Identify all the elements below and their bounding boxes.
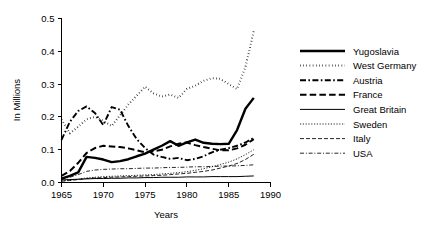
x-tick-label: 1990 [260,189,281,200]
legend-label-great-britain: Great Britain [353,104,406,115]
x-tick-label: 1965 [51,189,72,200]
legend-label-italy: Italy [353,133,371,144]
x-tick-label: 1985 [218,189,239,200]
series-line-austria [62,106,254,160]
y-tick-label: 0.2 [41,111,54,122]
series-layer [62,31,254,181]
legend-label-france: France [353,89,383,100]
chart-legend: YugoslaviaWest GermanyAustriaFranceGreat… [300,46,416,159]
y-tick-label: 0.3 [41,79,54,90]
y-axis: 0.00.10.20.30.40.5 [41,13,61,188]
x-axis: 196519701975198019851990 [51,183,281,200]
y-tick-label: 0.5 [41,13,54,24]
y-axis-title: In Millions [11,79,22,121]
y-tick-label: 0.4 [41,46,54,57]
x-axis-title: Years [154,209,178,220]
legend-label-west-germany: West Germany [353,60,416,71]
legend-label-austria: Austria [353,75,383,86]
line-chart: 0.00.10.20.30.40.5 196519701975198019851… [0,0,440,235]
chart-figure: 0.00.10.20.30.40.5 196519701975198019851… [0,0,440,235]
y-tick-label: 0.1 [41,144,54,155]
legend-label-sweden: Sweden [353,119,387,130]
y-tick-label: 0.0 [41,177,54,188]
legend-label-yugoslavia: Yugoslavia [353,46,400,57]
legend-label-usa: USA [353,148,373,159]
x-tick-label: 1970 [93,189,114,200]
x-tick-label: 1980 [176,189,197,200]
x-tick-label: 1975 [135,189,156,200]
series-line-west-germany [62,31,254,133]
